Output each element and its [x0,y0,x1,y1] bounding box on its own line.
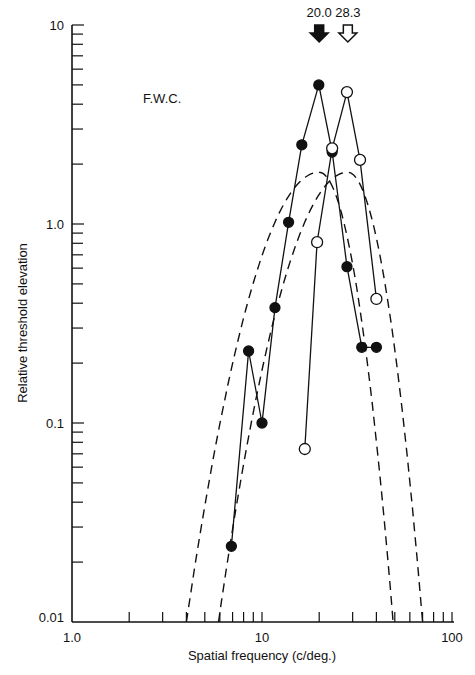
filled-data-point [257,418,267,428]
filled-data-point [342,262,352,272]
x-tick-label: 1.0 [63,630,81,645]
y-tick-label: 0.1 [46,416,64,431]
y-tick-label: 10 [50,18,64,33]
filled-data-point [371,342,381,352]
axes: 1.0101000.010.11.010 [39,18,463,645]
open-data-point [371,293,382,304]
filled-data-point [284,217,294,227]
open-data-point [327,143,338,154]
arrow-label-open: 28.3 [335,5,360,20]
open-data-point [299,444,310,455]
x-tick-label: 10 [255,630,269,645]
filled-data-point [357,342,367,352]
chart-canvas: 1.0101000.010.11.010 F.W.C. 20.0 28.3 Sp… [0,0,475,675]
x-tick-label: 100 [441,630,463,645]
open-data-point [312,237,323,248]
open-arrow-icon [339,25,357,42]
filled-data-point [297,140,307,150]
annotations: F.W.C. 20.0 28.3 [143,5,360,106]
x-axis-title: Spatial frequency (c/deg.) [188,648,336,663]
filled-data-point [270,303,280,313]
arrow-label-filled: 20.0 [307,5,332,20]
data-lines [231,85,376,546]
filled-arrow-icon [310,25,328,42]
filled-data-point [244,346,254,356]
dashed-fit-curve [186,172,393,622]
open-data-point [355,154,366,165]
y-tick-label: 1.0 [46,217,64,232]
open-data-point [341,87,352,98]
fitted-curves [186,172,422,622]
subject-label: F.W.C. [143,91,181,106]
y-axis-title: Relative threshold elevation [15,243,30,403]
filled-data-point [226,541,236,551]
series-line [305,92,377,449]
filled-data-point [314,80,324,90]
series-line [231,85,376,546]
y-tick-label: 0.01 [39,610,64,625]
